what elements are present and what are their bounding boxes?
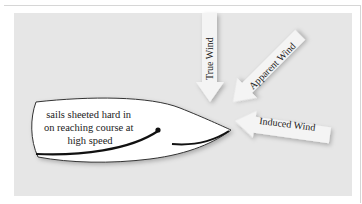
apparent-wind-label: Apparent Wind xyxy=(247,40,298,91)
true-wind-label: True Wind xyxy=(204,37,215,80)
sailing-wind-diagram: sails sheeted hard in on reaching course… xyxy=(0,0,362,204)
mast-dot xyxy=(155,127,160,132)
